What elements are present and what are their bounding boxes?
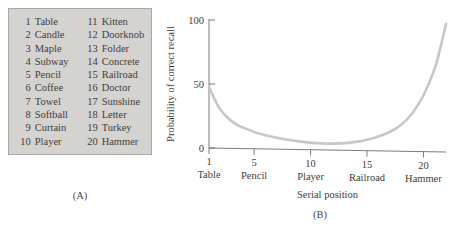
- panel-a-caption: (A): [8, 190, 152, 201]
- word-label: Player: [35, 135, 62, 148]
- y-tick-label: 0: [199, 143, 204, 154]
- x-tick-label: 5: [252, 157, 257, 168]
- word-number: 19: [83, 121, 98, 134]
- word-label: Curtain: [35, 121, 67, 134]
- word-number: 1: [16, 15, 31, 28]
- x-tick-sublabel: Railroad: [349, 172, 386, 183]
- serial-position-chart-panel: 0501001Table5Pencil10Player15Railroad20H…: [160, 0, 449, 227]
- x-axis: [209, 148, 446, 152]
- word-list-item: 19 Turkey: [83, 121, 145, 134]
- word-number: 8: [16, 108, 31, 121]
- figure-caption-text: [0, 221, 2, 227]
- word-number: 5: [16, 68, 31, 81]
- x-tick-label: 1: [206, 156, 211, 167]
- word-label: Pencil: [35, 68, 61, 81]
- word-list-item: 12 Doorknob: [83, 28, 145, 41]
- word-label: Turkey: [102, 121, 132, 134]
- word-list-item: 13 Folder: [83, 42, 145, 55]
- y-tick-label: 100: [188, 15, 204, 26]
- word-list-item: 6 Coffee: [16, 81, 69, 94]
- word-list-item: 9 Curtain: [16, 121, 69, 134]
- word-list-item: 14 Concrete: [83, 55, 145, 68]
- word-number: 2: [16, 28, 31, 41]
- word-label: Table: [35, 15, 58, 28]
- word-label: Candle: [35, 28, 65, 41]
- chart-labels: 0501001Table5Pencil10Player15Railroad20H…: [165, 15, 442, 200]
- word-list-column-left: 1 Table 2 Candle 3 Maple 4 Subway 5 Penc…: [16, 15, 69, 148]
- word-list-item: 17 Sunshine: [83, 95, 145, 108]
- word-label: Doorknob: [102, 28, 145, 41]
- word-label: Coffee: [35, 81, 63, 94]
- word-list-item: 8 Softball: [16, 108, 69, 121]
- word-number: 3: [16, 42, 31, 55]
- word-list-column-right: 11 Kitten 12 Doorknob 13 Folder 14 Concr…: [83, 15, 145, 148]
- recall-curve: [209, 24, 446, 144]
- word-number: 16: [83, 81, 98, 94]
- word-list-item: 3 Maple: [16, 42, 69, 55]
- x-tick-label: 15: [362, 159, 373, 170]
- word-number: 15: [83, 68, 98, 81]
- word-label: Softball: [35, 108, 68, 121]
- word-label: Railroad: [102, 68, 138, 81]
- x-tick-label: 10: [305, 158, 316, 169]
- word-number: 11: [83, 15, 98, 28]
- word-label: Doctor: [102, 81, 131, 94]
- word-number: 9: [16, 121, 31, 134]
- word-number: 7: [16, 95, 31, 108]
- figure-caption-clipped: [0, 221, 200, 227]
- panel-b-caption: (B): [200, 209, 440, 220]
- word-list-item: 15 Railroad: [83, 68, 145, 81]
- word-label: Concrete: [102, 55, 140, 68]
- word-list-item: 1 Table: [16, 15, 69, 28]
- word-list-item: 7 Towel: [16, 95, 69, 108]
- x-tick-label: 20: [418, 160, 429, 171]
- x-tick-sublabel: Pencil: [241, 170, 267, 181]
- word-list-grid: 1 Table 2 Candle 3 Maple 4 Subway 5 Penc…: [9, 15, 151, 148]
- word-list-item: 16 Doctor: [83, 81, 145, 94]
- word-number: 17: [83, 95, 98, 108]
- word-list-item: 5 Pencil: [16, 68, 69, 81]
- y-tick-label: 50: [194, 79, 205, 90]
- word-label: Subway: [35, 55, 69, 68]
- word-number: 10: [16, 135, 31, 148]
- word-list-panel: 1 Table 2 Candle 3 Maple 4 Subway 5 Penc…: [8, 8, 152, 155]
- x-axis-label: Serial position: [297, 189, 359, 200]
- x-tick-sublabel: Hammer: [405, 173, 442, 184]
- x-tick-sublabel: Table: [197, 169, 221, 180]
- word-list-item: 4 Subway: [16, 55, 69, 68]
- word-list-item: 20 Hammer: [83, 135, 145, 148]
- word-number: 14: [83, 55, 98, 68]
- word-list-item: 11 Kitten: [83, 15, 145, 28]
- word-list-item: 18 Letter: [83, 108, 145, 121]
- word-label: Letter: [102, 108, 127, 121]
- word-label: Towel: [35, 95, 61, 108]
- word-number: 6: [16, 81, 31, 94]
- word-number: 18: [83, 108, 98, 121]
- word-number: 20: [83, 135, 98, 148]
- word-label: Maple: [35, 42, 62, 55]
- x-tick-sublabel: Player: [297, 171, 324, 182]
- chart-axes: [209, 19, 446, 152]
- word-number: 12: [83, 28, 98, 41]
- serial-position-chart: 0501001Table5Pencil10Player15Railroad20H…: [160, 0, 449, 210]
- y-axis-label: Probability of correct recall: [165, 26, 176, 142]
- word-label: Folder: [102, 42, 129, 55]
- chart-ticks: [209, 20, 423, 158]
- word-number: 13: [83, 42, 98, 55]
- word-label: Kitten: [102, 15, 128, 28]
- word-label: Hammer: [102, 135, 139, 148]
- word-list-item: 2 Candle: [16, 28, 69, 41]
- word-list-item: 10 Player: [16, 135, 69, 148]
- word-number: 4: [16, 55, 31, 68]
- word-label: Sunshine: [102, 95, 141, 108]
